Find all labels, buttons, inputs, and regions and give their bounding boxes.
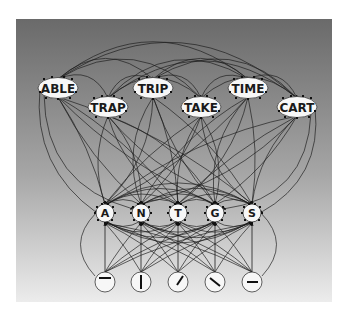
interactive-activation-diagram: ABLETRAPTRIPTAKETIMECART ANTGS — [0, 0, 348, 312]
letter-label: A — [101, 207, 110, 220]
horizontal-mid-icon — [242, 272, 262, 292]
word-label: TAKE — [184, 101, 218, 115]
word-label: TRIP — [138, 82, 169, 96]
word-label: ABLE — [41, 82, 75, 96]
letter-label: T — [174, 207, 182, 220]
letter-node-t: T — [167, 203, 189, 224]
letter-node-a: A — [94, 203, 116, 224]
horizontal-bar-icon — [95, 272, 115, 292]
diagram-canvas: ABLETRAPTRIPTAKETIMECART ANTGS — [0, 0, 348, 312]
letter-label: N — [136, 207, 145, 220]
letter-node-s: S — [241, 203, 263, 224]
letter-label: G — [210, 207, 219, 220]
letter-node-n: N — [130, 203, 152, 224]
letter-node-g: G — [204, 203, 226, 224]
letter-label: S — [248, 207, 256, 220]
word-label: TIME — [232, 82, 265, 96]
vertical-bar-icon — [131, 272, 151, 292]
background-panel — [16, 19, 332, 302]
diagonal-left-icon — [205, 272, 225, 292]
diagonal-right-icon — [168, 272, 188, 292]
word-label: CART — [280, 101, 316, 115]
word-label: TRAP — [90, 101, 126, 115]
